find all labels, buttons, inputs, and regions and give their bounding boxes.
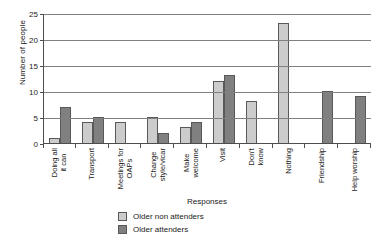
- x-tick-label: Friendship: [318, 148, 327, 183]
- y-tick-label: 0: [34, 140, 38, 149]
- bar: [147, 117, 158, 143]
- gridline: [44, 40, 371, 41]
- x-label-cell: Changestyle/vicar: [141, 148, 174, 196]
- bar: [93, 117, 104, 143]
- bar: [191, 122, 202, 143]
- legend-label: Older attenders: [133, 225, 188, 234]
- x-tick-label: Nothing: [285, 148, 294, 174]
- bar-group: [240, 14, 273, 143]
- y-tick-label: 10: [29, 88, 38, 97]
- bar: [49, 138, 60, 143]
- legend-item: Older attenders: [118, 223, 204, 236]
- x-label-cell: Don'tknow: [240, 148, 273, 196]
- bar: [355, 96, 366, 143]
- x-tick-label: Changestyle/vicar: [149, 148, 166, 181]
- bar-chart: Number of people 0510152025 Doing allit …: [0, 0, 383, 249]
- y-tick-label: 20: [29, 36, 38, 45]
- bar-group: [44, 14, 77, 143]
- x-tick-label: Visit: [219, 148, 228, 162]
- x-label-cell: Meetings forOAPs: [109, 148, 142, 196]
- y-tick-label: 25: [29, 10, 38, 19]
- gridline: [44, 66, 371, 67]
- bar-groups: [44, 14, 371, 143]
- bar: [224, 75, 235, 143]
- gridline: [44, 14, 371, 15]
- bar-group: [338, 14, 371, 143]
- x-label-cell: Help worship: [338, 148, 371, 196]
- x-label-cell: Nothing: [273, 148, 306, 196]
- x-label-cell: Makewelcome: [174, 148, 207, 196]
- bar: [322, 91, 333, 143]
- bar-group: [77, 14, 110, 143]
- x-label-cell: Friendship: [305, 148, 338, 196]
- bar: [82, 122, 93, 143]
- x-label-cell: Doing allit can: [43, 148, 76, 196]
- x-tick-label: Meetings forOAPs: [116, 148, 133, 189]
- bar: [180, 127, 191, 143]
- x-axis-title: Responses: [43, 197, 371, 206]
- bar-group: [175, 14, 208, 143]
- bar: [158, 133, 169, 143]
- bar: [213, 81, 224, 143]
- gridline: [44, 92, 371, 93]
- legend-label: Older non attenders: [133, 212, 204, 221]
- bar-group: [208, 14, 241, 143]
- legend-swatch: [118, 212, 127, 221]
- bar-group: [273, 14, 306, 143]
- x-axis-labels: Doing allit canTransportMeetings forOAPs…: [43, 148, 371, 196]
- y-tick-label: 15: [29, 62, 38, 71]
- bar: [278, 23, 289, 143]
- gridline: [44, 118, 371, 119]
- bar: [246, 101, 257, 143]
- x-tick-label: Doing allit can: [51, 148, 68, 177]
- plot-area: [43, 14, 371, 144]
- bar: [115, 122, 126, 143]
- legend-item: Older non attenders: [118, 210, 204, 223]
- x-label-cell: Visit: [207, 148, 240, 196]
- x-tick-label: Transport: [88, 148, 97, 180]
- x-label-cell: Transport: [76, 148, 109, 196]
- bar-group: [109, 14, 142, 143]
- legend: Older non attendersOlder attenders: [118, 210, 204, 236]
- y-tick-label: 5: [34, 114, 38, 123]
- bar-group: [142, 14, 175, 143]
- y-axis-ticks: 0510152025: [18, 14, 38, 144]
- x-tick-label: Help worship: [350, 148, 359, 191]
- x-tick-label: Makewelcome: [182, 148, 199, 178]
- bar: [60, 107, 71, 143]
- bar-group: [306, 14, 339, 143]
- x-tick-label: Don'tknow: [248, 148, 265, 166]
- legend-swatch: [118, 225, 127, 234]
